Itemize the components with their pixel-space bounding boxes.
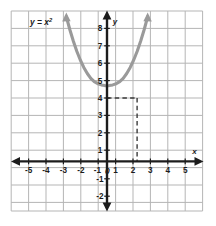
graph-figure: 8 7 6 5 4 3 2 1 -1 -2 -5 -4 -3 -2 -1 1 2… — [0, 0, 216, 226]
y-tick-label-7: 7 — [98, 42, 103, 51]
y-axis-name-label: y — [112, 17, 118, 26]
y-tick-label-8: 8 — [98, 24, 103, 33]
y-tick-label-2: 2 — [98, 129, 103, 138]
x-tick-label-5: 5 — [183, 166, 188, 175]
x-tick-label-neg2: -2 — [77, 166, 85, 175]
y-tick-label-neg1: -1 — [96, 175, 104, 184]
x-tick-label-1: 1 — [113, 166, 118, 175]
y-tick-label-6: 6 — [98, 59, 103, 68]
origin-label: 0 — [105, 166, 110, 176]
x-axis-name-label: x — [191, 147, 197, 156]
y-tick-label-1: 1 — [98, 146, 103, 155]
x-tick-label-neg5: -5 — [25, 166, 33, 175]
y-tick-label-4: 4 — [98, 94, 103, 103]
x-tick-label-2: 2 — [131, 166, 136, 175]
equation-label-base: y = x — [29, 17, 49, 27]
x-tick-label-neg3: -3 — [60, 166, 68, 175]
y-tick-label-3: 3 — [98, 111, 103, 120]
x-tick-label-neg4: -4 — [42, 166, 50, 175]
x-tick-label-neg1: -1 — [94, 166, 102, 175]
y-tick-label-5: 5 — [98, 77, 103, 86]
coordinate-plane-chart: 8 7 6 5 4 3 2 1 -1 -2 -5 -4 -3 -2 -1 1 2… — [0, 0, 216, 226]
y-tick-label-neg2: -2 — [96, 192, 104, 201]
x-tick-label-4: 4 — [166, 166, 171, 175]
x-tick-label-3: 3 — [148, 166, 153, 175]
